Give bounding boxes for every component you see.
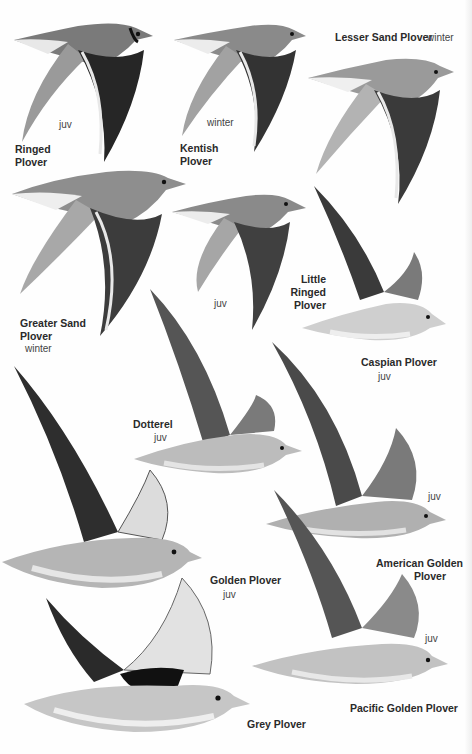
- label-line: Plover: [20, 330, 86, 343]
- label-pacific-golden-plover: Pacific Golden Plover: [350, 702, 458, 715]
- illustration-kentish-plover: [170, 18, 320, 158]
- age-note-pacific-golden-plover: juv: [425, 633, 438, 645]
- illustration-pacific-golden-plover: [252, 488, 450, 694]
- field-guide-plate: juv Ringed Plover winter Kentish Plover …: [0, 0, 472, 754]
- age-note-ringed-plover: juv: [59, 119, 72, 131]
- label-ringed-plover: Ringed Plover: [15, 143, 51, 169]
- illustration-golden-plover: [2, 362, 202, 592]
- label-kentish-plover: Kentish Plover: [180, 142, 219, 168]
- age-note-lesser-sand-plover: winter: [427, 32, 454, 44]
- label-line: Ringed: [15, 143, 51, 156]
- label-line: Kentish: [180, 142, 219, 155]
- illustration-ringed-plover: [8, 14, 158, 164]
- label-line: Greater Sand: [20, 317, 86, 330]
- illustration-grey-plover: [24, 578, 250, 734]
- label-lesser-sand-plover: Lesser Sand Plover: [335, 31, 432, 44]
- age-note-kentish-plover: winter: [207, 117, 234, 129]
- age-note-greater-sand-plover: winter: [25, 343, 52, 355]
- page-edge-shadow: [464, 0, 472, 754]
- illustration-caspian-plover: [300, 182, 450, 342]
- label-greater-sand-plover: Greater Sand Plover: [20, 317, 86, 343]
- label-line: Plover: [180, 155, 219, 168]
- label-grey-plover: Grey Plover: [247, 718, 306, 731]
